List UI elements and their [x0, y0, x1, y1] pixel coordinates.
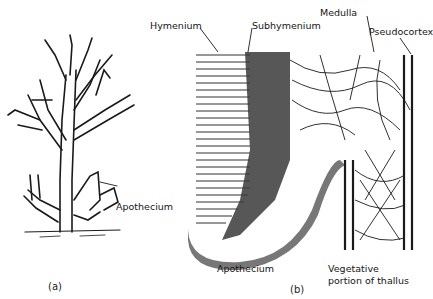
label-vegetative: Vegetative: [328, 263, 379, 274]
apothecium-section-drawing: [188, 16, 412, 270]
label-hymenium: Hymenium: [150, 20, 202, 31]
label-medulla: Medulla: [320, 7, 357, 18]
label-apothecium-a: Apothecium: [116, 201, 173, 212]
panel-caption-a: (a): [48, 281, 62, 292]
label-pseudocortex: Pseudocortex: [369, 26, 433, 37]
label-apothecium-b: Apothecium: [217, 263, 274, 274]
label-portion-of-thallus: portion of thallus: [328, 275, 409, 286]
label-subhymenium: Subhymenium: [252, 20, 321, 31]
panel-caption-b: (b): [290, 284, 304, 295]
